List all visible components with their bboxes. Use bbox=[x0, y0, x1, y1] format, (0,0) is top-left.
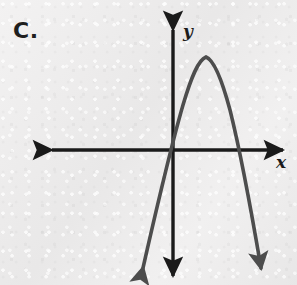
x-axis-label: x bbox=[276, 152, 286, 172]
graph-figure: C. y x bbox=[0, 0, 297, 285]
parabola-curve bbox=[143, 57, 261, 268]
coordinate-plane bbox=[0, 0, 297, 285]
y-axis-label: y bbox=[183, 21, 193, 41]
